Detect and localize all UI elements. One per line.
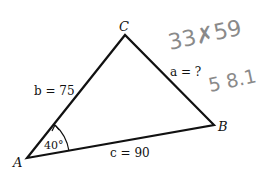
angle-a-label: 40°: [44, 139, 64, 152]
vertex-label-b: B: [217, 119, 228, 134]
side-label-b: b = 75: [34, 84, 75, 98]
side-label-c: c = 90: [110, 146, 150, 160]
vertex-label-c: C: [119, 19, 129, 34]
vertex-label-a: A: [12, 155, 22, 170]
triangle-diagram: C B A b = 75 a = ? c = 90 40° 33✗59 5 8.…: [0, 0, 271, 178]
handwritten-note-1: 33✗59: [166, 15, 244, 55]
handwritten-note-2: 5 8.1: [206, 64, 258, 96]
side-label-a: a = ?: [170, 65, 201, 79]
diagram-svg: C B A b = 75 a = ? c = 90 40° 33✗59 5 8.…: [0, 0, 271, 178]
